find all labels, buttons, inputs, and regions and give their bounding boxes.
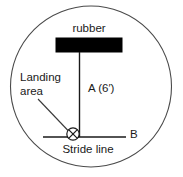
landing-area-leader-line bbox=[38, 99, 68, 131]
landing-area-marker bbox=[67, 128, 79, 140]
point-b-label: B bbox=[130, 128, 138, 140]
landing-area-label-line2: area bbox=[20, 85, 44, 97]
pitching-rubber bbox=[56, 38, 122, 52]
distance-a-label: A (6′) bbox=[88, 82, 115, 94]
stride-line-label: Stride line bbox=[62, 143, 113, 155]
pitching-mound-diagram: rubber A (6′) Landing area B Stride line bbox=[0, 0, 183, 177]
rubber-label: rubber bbox=[72, 22, 105, 34]
landing-area-label-line1: Landing bbox=[20, 71, 61, 83]
diagram-canvas: rubber A (6′) Landing area B Stride line bbox=[0, 0, 183, 177]
